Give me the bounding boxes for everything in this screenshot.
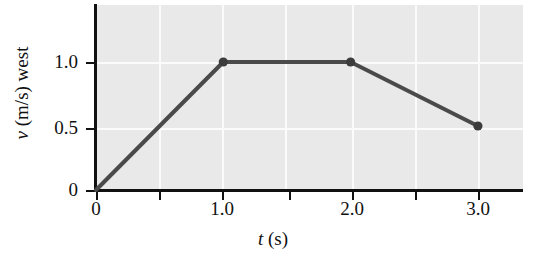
y-axis-tick: [86, 128, 95, 130]
x-axis-tick: [159, 192, 161, 200]
x-axis-title: t (s): [0, 228, 546, 250]
x-axis-tick: [415, 192, 417, 200]
gridline-horizontal: [97, 128, 523, 130]
x-tick-label-2: 2.0: [322, 198, 382, 220]
gridline-vertical: [478, 5, 480, 191]
y-tick-label-05: 0.5: [40, 117, 78, 139]
x-tick-label-3: 3.0: [448, 198, 508, 220]
gridline-vertical: [222, 5, 224, 191]
x-tick-label-1: 1.0: [192, 198, 252, 220]
y-axis-title-symbol: v: [11, 131, 32, 139]
gridline-horizontal: [97, 62, 523, 64]
gridline-vertical: [415, 5, 417, 191]
y-axis-line: [94, 4, 97, 192]
velocity-time-chart: 1.0 0.5 0 0 1.0 2.0 3.0 v (m/s) west t (…: [0, 0, 546, 270]
y-axis-tick: [86, 190, 95, 192]
x-axis-title-unit: (s): [268, 228, 288, 249]
x-axis-tick: [289, 192, 291, 200]
gridline-vertical: [352, 5, 354, 191]
y-tick-label-1: 1.0: [40, 51, 78, 73]
x-tick-label-0: 0: [76, 198, 116, 220]
y-axis-tick: [86, 62, 95, 64]
gridline-vertical: [159, 5, 161, 191]
plot-area: [97, 5, 523, 191]
y-axis-title-rest: (m/s) west: [11, 47, 32, 127]
y-tick-label-0: 0: [40, 179, 78, 201]
gridline-vertical: [285, 5, 287, 191]
y-axis-title: v (m/s) west: [11, 3, 33, 183]
